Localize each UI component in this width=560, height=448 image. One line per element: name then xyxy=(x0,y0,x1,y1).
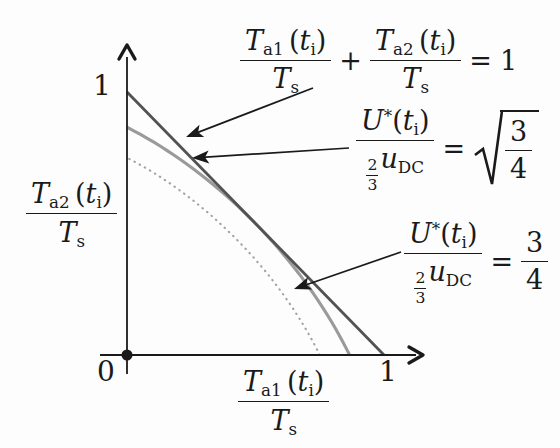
plus-operator: + xyxy=(339,46,362,76)
x-axis-label: Ta1 (ti) Ts xyxy=(238,366,329,438)
equation-constraint: Ta1 (ti) Ts + Ta2 (ti) Ts = 1 xyxy=(236,26,521,96)
fraction-three-fourths: 3 4 xyxy=(505,117,532,184)
radical-sign-icon xyxy=(473,107,503,191)
x-axis-tick-1: 1 xyxy=(379,358,397,386)
square-root: 3 4 xyxy=(473,107,539,191)
equals-sign: = xyxy=(490,247,513,277)
callout-line-sqrt34-curve xyxy=(202,148,349,157)
fraction-ustar-over-udc: U*(ti) 23uDC xyxy=(356,106,434,191)
equals-sign: = xyxy=(442,134,465,164)
radicand: 3 4 xyxy=(500,110,539,184)
fraction-ustar-over-udc: U*(ti) 23uDC xyxy=(404,219,482,304)
fraction-ta2-over-ts: Ta2 (ti) Ts xyxy=(370,26,461,96)
fraction-numerator: 3 xyxy=(521,228,548,262)
origin-label: 0 xyxy=(97,358,115,386)
rhs-value: 1 xyxy=(500,46,517,76)
fraction-denominator: Ts xyxy=(265,402,302,437)
equals-sign: = xyxy=(469,46,492,76)
fraction-numerator: Ta2 (ti) xyxy=(26,178,117,214)
equation-three-fourths: U*(ti) 23uDC = 3 4 xyxy=(400,219,552,304)
origin-dot xyxy=(122,350,133,361)
fraction-denominator: Ts xyxy=(397,61,434,95)
fraction-denominator: 4 xyxy=(505,151,532,184)
fraction-denominator: 4 xyxy=(521,262,548,295)
fraction-three-fourths: 3 4 xyxy=(521,228,548,295)
fraction-numerator: U*(ti) xyxy=(356,106,434,141)
fraction-numerator: Ta1 (ti) xyxy=(240,26,331,61)
constraint-line xyxy=(127,92,384,355)
y-axis-arrowhead-icon xyxy=(119,45,135,59)
callout-line-frac34-curve xyxy=(303,252,401,286)
equation-sqrt-three-fourths: U*(ti) 23uDC = 3 4 xyxy=(352,106,543,191)
fraction-denominator: Ts xyxy=(267,61,304,95)
fraction-numerator: U*(ti) xyxy=(404,219,482,254)
fraction-numerator: 3 xyxy=(505,117,532,151)
figure-canvas: Ta1 (ti) Ts + Ta2 (ti) Ts = 1 U*(ti) 23u… xyxy=(0,0,560,448)
fraction-denominator: 23uDC xyxy=(409,254,477,304)
fraction-ta1-over-ts: Ta1 (ti) Ts xyxy=(240,26,331,96)
fraction-denominator: 23uDC xyxy=(361,141,429,191)
fraction-numerator: Ta1 (ti) xyxy=(238,366,329,402)
frac34-curve xyxy=(127,158,320,355)
fraction-denominator: Ts xyxy=(53,214,90,249)
y-axis-label: Ta2 (ti) Ts xyxy=(26,178,117,250)
y-axis-tick-1: 1 xyxy=(93,72,111,100)
fraction-numerator: Ta2 (ti) xyxy=(370,26,461,61)
